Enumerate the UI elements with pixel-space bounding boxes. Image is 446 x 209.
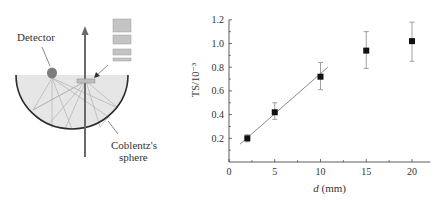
sample-plate xyxy=(77,79,95,83)
y-tick-label: 1.0 xyxy=(212,38,225,49)
data-point-square-marker xyxy=(244,135,250,141)
data-point-square-marker xyxy=(318,74,324,80)
y-tick-label: 0.8 xyxy=(212,62,225,73)
y-tick-label: 0.2 xyxy=(212,133,225,144)
sphere-label-line2: sphere xyxy=(119,151,148,163)
fit-line xyxy=(240,67,328,144)
ts-chart: 0.20.40.60.81.01.205101520d (mm)TS/10⁻³ xyxy=(190,14,430,195)
data-point-square-marker xyxy=(363,48,369,54)
x-tick-label: 15 xyxy=(361,166,371,177)
y-tick-label: 0.4 xyxy=(212,109,225,120)
sphere-leader-line xyxy=(108,121,118,134)
sphere-label-line1: Coblentz's xyxy=(111,139,157,151)
sample-pointer-line xyxy=(97,65,108,75)
sample-thick-4 xyxy=(113,58,131,61)
detector-icon xyxy=(47,68,57,79)
data-point-square-marker xyxy=(272,109,278,115)
x-tick-label: 20 xyxy=(407,166,417,177)
beam-arrowhead-icon xyxy=(82,26,89,35)
detector-label: Detector xyxy=(17,31,55,43)
sample-thick-2 xyxy=(113,35,131,44)
detector-leader-line xyxy=(42,47,50,66)
figure: Detector Coblentz's sphere 0.20.40.60.81… xyxy=(0,0,446,209)
y-axis-label: TS/10⁻³ xyxy=(190,63,201,97)
y-tick-label: 1.2 xyxy=(212,14,225,25)
x-tick-label: 0 xyxy=(227,166,232,177)
y-tick-label: 0.6 xyxy=(212,85,225,96)
data-point-square-marker xyxy=(409,38,415,44)
x-tick-label: 5 xyxy=(272,166,277,177)
sample-thick-1 xyxy=(113,19,131,32)
x-axis-label: d (mm) xyxy=(313,182,346,195)
x-tick-label: 10 xyxy=(316,166,326,177)
sample-stack xyxy=(113,19,131,61)
coblentz-diagram: Detector Coblentz's sphere xyxy=(16,19,157,163)
sample-thick-3 xyxy=(113,49,131,55)
